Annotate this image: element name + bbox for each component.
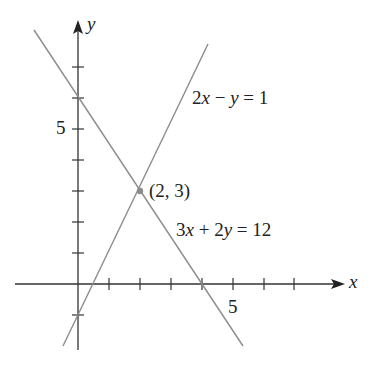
y-tick-label-5: 5: [56, 118, 66, 137]
x-tick-label-5: 5: [228, 297, 238, 316]
equation-label-3x-plus-2y: 3x + 2y = 12: [176, 220, 271, 239]
x-axis-label: x: [349, 272, 357, 291]
line-3x-plus-2y-eq-12: [34, 30, 243, 346]
y-axis-label: y: [87, 14, 95, 33]
intersection-point: [137, 188, 143, 194]
y-axis: [72, 20, 84, 350]
equation-label-2x-minus-y: 2x − y = 1: [192, 88, 268, 107]
x-axis: [15, 278, 345, 290]
intersection-label: (2, 3): [149, 181, 190, 200]
